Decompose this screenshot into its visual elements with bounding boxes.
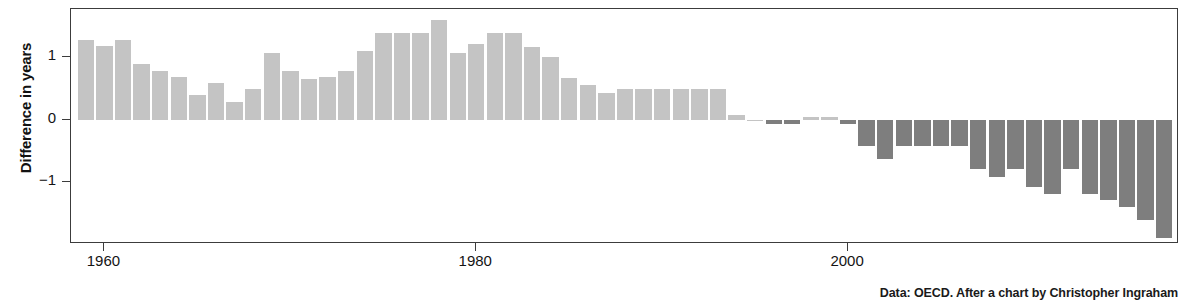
bar — [208, 83, 224, 120]
bar — [1137, 120, 1153, 221]
bar — [1119, 120, 1135, 207]
chart-page: Difference in years 10−1 196019802000 Da… — [0, 0, 1192, 301]
bar — [375, 33, 391, 119]
x-axis-tick — [847, 243, 848, 251]
bar — [542, 57, 558, 119]
bar — [319, 77, 335, 120]
bar — [951, 120, 967, 147]
bar — [189, 95, 205, 120]
bar — [1063, 120, 1079, 170]
bar — [598, 93, 614, 120]
bar — [877, 120, 893, 160]
bar — [858, 120, 874, 147]
bar — [96, 46, 112, 120]
bar — [914, 120, 930, 147]
bar — [264, 53, 280, 120]
bar — [1156, 120, 1172, 238]
bar — [691, 89, 707, 120]
x-axis-tick-label: 1960 — [68, 252, 138, 269]
bar — [450, 53, 466, 120]
bar — [357, 51, 373, 119]
bar — [561, 78, 577, 120]
x-axis-tick — [103, 243, 104, 251]
bar — [245, 89, 261, 120]
bar — [784, 120, 800, 124]
bar — [747, 120, 763, 122]
bar — [970, 120, 986, 170]
y-axis-tick-label: 0 — [10, 109, 56, 126]
bar — [1100, 120, 1116, 201]
x-axis-tick — [475, 243, 476, 251]
bar — [933, 120, 949, 147]
bar — [989, 120, 1005, 178]
x-axis-tick-label: 2000 — [812, 252, 882, 269]
bar — [1082, 120, 1098, 194]
bar — [431, 20, 447, 120]
bar — [133, 64, 149, 119]
bar-series — [71, 9, 1177, 242]
bar — [896, 120, 912, 147]
bar — [580, 85, 596, 119]
bar — [412, 33, 428, 119]
bar — [1007, 120, 1023, 170]
bar — [78, 40, 94, 120]
x-axis-tick-label: 1980 — [440, 252, 510, 269]
bar — [301, 79, 317, 120]
bar — [468, 44, 484, 119]
bar — [338, 71, 354, 120]
bar — [766, 120, 782, 124]
bar — [617, 89, 633, 119]
bar — [1026, 120, 1042, 187]
bar — [821, 117, 837, 119]
plot-area — [70, 8, 1178, 243]
bar — [152, 71, 168, 120]
bar — [505, 33, 521, 119]
bar — [1044, 120, 1060, 194]
bar — [524, 47, 540, 120]
bar — [654, 89, 670, 120]
bar — [710, 89, 726, 120]
bar — [803, 117, 819, 119]
bar — [728, 115, 744, 120]
bar — [171, 77, 187, 120]
y-axis-tick-label: 1 — [10, 46, 56, 63]
bar — [282, 71, 298, 120]
bar — [394, 33, 410, 119]
bar — [635, 89, 651, 120]
bar — [487, 33, 503, 119]
chart-caption: Data: OECD. After a chart by Christopher… — [0, 286, 1178, 300]
bar — [226, 102, 242, 120]
y-axis-tick-label: −1 — [10, 171, 56, 188]
bar — [840, 120, 856, 124]
bar — [115, 40, 131, 120]
bar — [673, 89, 689, 120]
